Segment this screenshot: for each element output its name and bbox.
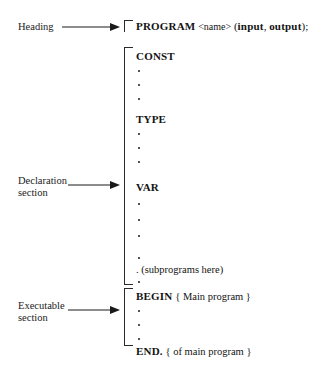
ellipsis-dot-const-1	[138, 70, 140, 72]
code-line-end: END. { of main program }	[136, 345, 251, 358]
ellipsis-dot-type-1	[138, 133, 140, 135]
label-heading: Heading	[18, 21, 54, 34]
arrow-executable-shaft	[68, 310, 112, 311]
code-line-const: CONST	[136, 50, 175, 62]
subprograms-note: (subprograms here)	[141, 264, 223, 275]
code-line-type: TYPE	[136, 113, 166, 125]
program-name-placeholder: <name>	[198, 21, 231, 32]
ellipsis-dot-sub-2	[138, 281, 140, 283]
type-keyword: TYPE	[136, 113, 166, 125]
program-keyword: PROGRAM	[136, 20, 195, 32]
arrow-heading	[62, 22, 120, 32]
program-semicolon: ;	[305, 20, 308, 32]
label-heading-text: Heading	[18, 21, 54, 32]
label-declaration-line1: Declaration	[18, 175, 67, 187]
ellipsis-dot-exec-1	[138, 310, 140, 312]
label-executable-line2: section	[18, 312, 65, 324]
arrow-declaration-shaft	[68, 185, 112, 186]
ellipsis-dot-exec-2	[138, 324, 140, 326]
arrow-heading-shaft	[62, 27, 112, 28]
const-keyword: CONST	[136, 50, 175, 62]
bracket-heading	[124, 20, 133, 32]
ellipsis-dot-exec-3	[138, 338, 140, 340]
arrow-declaration	[68, 180, 120, 190]
program-param-output: output	[269, 20, 301, 32]
ellipsis-dot-var-2	[138, 219, 140, 221]
arrow-heading-head	[110, 23, 120, 31]
label-executable-section: Executable section	[18, 300, 65, 324]
ellipsis-dot-type-2	[138, 147, 140, 149]
var-keyword: VAR	[136, 181, 159, 193]
end-comment: { of main program }	[166, 346, 252, 357]
ellipsis-dot-sub-1	[138, 257, 140, 259]
ellipsis-dot-const-2	[138, 84, 140, 86]
end-keyword: END.	[136, 345, 163, 357]
label-executable-line1: Executable	[18, 300, 65, 312]
label-declaration-line2: section	[18, 187, 67, 199]
ellipsis-dot-type-3	[138, 161, 140, 163]
arrow-declaration-head	[110, 181, 120, 189]
code-line-program: PROGRAM <name> (input, output);	[136, 20, 308, 33]
arrow-executable-head	[110, 306, 120, 314]
pascal-structure-diagram: Heading Declaration section Executable s…	[0, 0, 333, 374]
arrow-executable	[68, 305, 120, 315]
ellipsis-dot-var-1	[138, 203, 140, 205]
code-line-begin: BEGIN { Main program }	[136, 290, 251, 303]
code-line-subprograms: . (subprograms here)	[136, 264, 223, 276]
bracket-executable	[124, 288, 133, 346]
program-param-input: input	[238, 20, 264, 32]
begin-comment: { Main program }	[175, 291, 251, 302]
ellipsis-dot-const-3	[138, 98, 140, 100]
ellipsis-dot-var-3	[138, 235, 140, 237]
bracket-declaration	[124, 47, 133, 285]
code-line-var: VAR	[136, 181, 159, 193]
begin-keyword: BEGIN	[136, 290, 172, 302]
label-declaration-section: Declaration section	[18, 175, 67, 199]
